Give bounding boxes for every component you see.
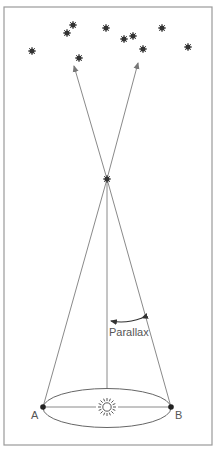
parallax-label: Parallax xyxy=(109,326,149,338)
earth-position-a: A xyxy=(31,404,46,421)
sight-lines xyxy=(43,63,171,407)
background-stars xyxy=(28,21,192,62)
sight-arrow-left xyxy=(74,66,107,179)
star-icon xyxy=(139,45,147,53)
parallax-diagram: Parallax A B xyxy=(0,0,221,460)
nearby-star-icon xyxy=(103,175,111,183)
sight-arrow-right xyxy=(107,63,138,179)
sun-icon xyxy=(98,398,116,416)
label-b: B xyxy=(175,409,182,421)
star-icon xyxy=(102,24,110,32)
star-icon xyxy=(184,43,192,51)
star-icon xyxy=(75,54,83,62)
star-icon xyxy=(28,47,36,55)
star-icon xyxy=(158,24,166,32)
star-icon xyxy=(63,29,71,37)
earth-position-b: B xyxy=(168,404,182,421)
diagram-frame xyxy=(4,7,212,445)
star-icon xyxy=(69,21,77,29)
star-icon xyxy=(129,32,137,40)
parallax-arc xyxy=(111,318,142,322)
label-a: A xyxy=(31,409,39,421)
star-icon xyxy=(120,35,128,43)
